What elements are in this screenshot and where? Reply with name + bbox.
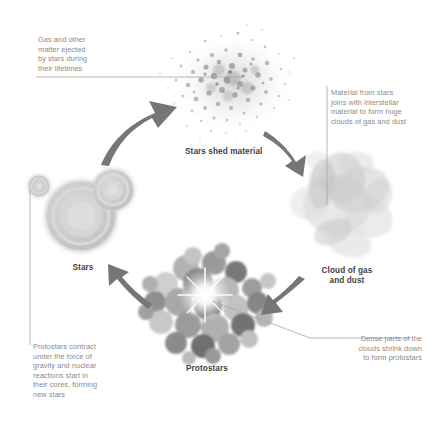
star-cluster-graphic <box>159 24 295 143</box>
star-small <box>29 176 50 197</box>
star-life-cycle-diagram: Gas and other matter ejected by stars du… <box>0 0 437 424</box>
protostars-graphic <box>138 243 276 365</box>
star-medium <box>93 170 133 210</box>
stars-graphic <box>28 169 134 252</box>
caption-stars: Stars <box>62 263 104 273</box>
annotation-protostars-contract: Protostars contract under the force of g… <box>33 342 119 400</box>
annotation-gas-ejected: Gas and other matter ejected by stars du… <box>38 35 126 73</box>
caption-protostars: Protostars <box>173 364 241 374</box>
caption-stars-shed-material: Stars shed material <box>185 147 293 157</box>
annotation-dense-parts: Dense parts of the clouds shrink down to… <box>318 334 422 363</box>
arrow-stars-to-cluster <box>101 101 177 166</box>
caption-cloud-of-gas-and-dust: Cloud of gas and dust <box>306 266 388 286</box>
annotation-material-from-stars: Material from stars joins with interstel… <box>331 88 435 126</box>
